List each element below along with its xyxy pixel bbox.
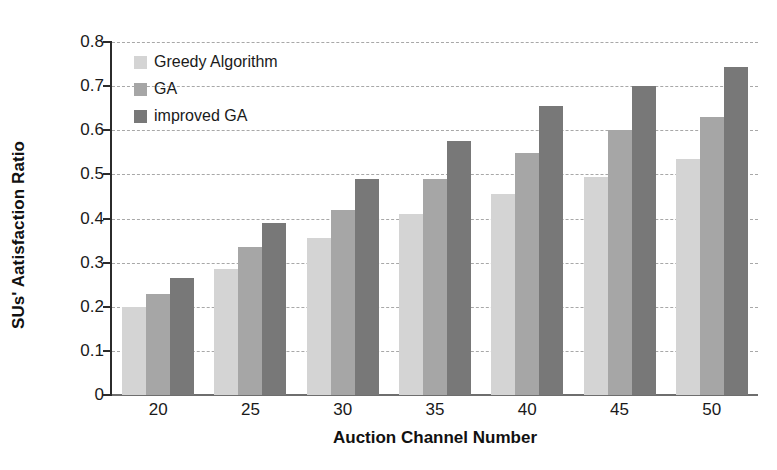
x-axis-tick-label: 35 bbox=[389, 400, 481, 420]
x-axis-tick-label: 25 bbox=[204, 400, 296, 420]
y-axis-tick-label: 0.8 bbox=[80, 32, 104, 52]
y-axis-tick-label: 0.5 bbox=[80, 164, 104, 184]
legend-item: Greedy Algorithm bbox=[134, 53, 278, 71]
x-axis-tick-label: 30 bbox=[297, 400, 389, 420]
y-axis-tick-labels: 00.10.20.30.40.50.60.70.8 bbox=[58, 42, 104, 395]
bar bbox=[676, 159, 700, 395]
bar bbox=[399, 214, 423, 395]
bar bbox=[238, 247, 262, 395]
legend-swatch-icon bbox=[134, 56, 147, 69]
y-axis-tick-mark bbox=[103, 129, 112, 131]
legend-swatch-icon bbox=[134, 110, 147, 123]
y-axis-tick-mark bbox=[103, 41, 112, 43]
bar bbox=[146, 294, 170, 395]
legend-label: improved GA bbox=[154, 107, 247, 125]
x-axis-tick-label: 50 bbox=[666, 400, 758, 420]
bar bbox=[122, 307, 146, 395]
bar bbox=[423, 179, 447, 395]
legend-swatch-icon bbox=[134, 83, 147, 96]
bar bbox=[632, 86, 656, 395]
legend-label: Greedy Algorithm bbox=[154, 53, 278, 71]
bar bbox=[491, 194, 515, 395]
bar bbox=[515, 153, 539, 395]
bar bbox=[447, 141, 471, 395]
bar bbox=[331, 210, 355, 395]
bar bbox=[214, 269, 238, 395]
y-axis-tick-label: 0.6 bbox=[80, 120, 104, 140]
x-axis-title: Auction Channel Number bbox=[112, 428, 758, 448]
bar bbox=[355, 179, 379, 395]
bar bbox=[700, 117, 724, 395]
bar-group bbox=[297, 42, 389, 395]
x-axis-tick-label: 20 bbox=[112, 400, 204, 420]
bar-group bbox=[389, 42, 481, 395]
y-axis-tick-mark bbox=[103, 306, 112, 308]
legend-item: GA bbox=[134, 80, 278, 98]
y-axis-tick-mark bbox=[103, 394, 112, 396]
bar-group bbox=[481, 42, 573, 395]
bar bbox=[724, 67, 748, 395]
y-axis-title: SUs' Aatisfaction Ratio bbox=[0, 0, 38, 470]
bar bbox=[539, 106, 563, 395]
y-axis-tick-mark bbox=[103, 350, 112, 352]
x-axis-tick-labels: 20253035404550 bbox=[112, 400, 758, 420]
y-axis-tick-mark bbox=[103, 262, 112, 264]
y-axis-tick-label: 0.4 bbox=[80, 209, 104, 229]
legend-item: improved GA bbox=[134, 107, 278, 125]
legend: Greedy AlgorithmGAimproved GA bbox=[134, 53, 278, 125]
y-axis-tick-label: 0.1 bbox=[80, 341, 104, 361]
legend-label: GA bbox=[154, 80, 177, 98]
y-axis-tick-label: 0.2 bbox=[80, 297, 104, 317]
x-axis-tick-label: 45 bbox=[573, 400, 665, 420]
bar-chart: SUs' Aatisfaction Ratio 00.10.20.30.40.5… bbox=[0, 0, 777, 470]
bar bbox=[170, 278, 194, 395]
y-axis-tick-label: 0.7 bbox=[80, 76, 104, 96]
y-axis-tick-mark bbox=[103, 218, 112, 220]
y-axis-tick-mark bbox=[103, 85, 112, 87]
bar bbox=[307, 238, 331, 395]
bar-group bbox=[573, 42, 665, 395]
bar bbox=[584, 177, 608, 395]
bar bbox=[608, 130, 632, 395]
bar-group bbox=[666, 42, 758, 395]
y-axis-tick-mark bbox=[103, 173, 112, 175]
x-axis-tick-label: 40 bbox=[481, 400, 573, 420]
bar bbox=[262, 223, 286, 395]
y-axis-tick-label: 0.3 bbox=[80, 253, 104, 273]
